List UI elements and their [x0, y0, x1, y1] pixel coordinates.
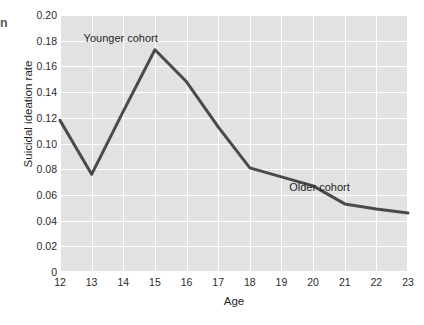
chart-figure: n 00.020.040.060.080.100.120.140.160.180…: [0, 0, 424, 325]
x-axis-tick-label: 12: [45, 276, 75, 288]
x-axis-tick-label: 21: [330, 276, 360, 288]
x-axis-tick-label: 16: [172, 276, 202, 288]
plot-area: Younger cohort Older cohort: [60, 15, 408, 272]
x-axis-tick-label: 15: [140, 276, 170, 288]
y-axis-title: Suicidal ideation rate: [22, 24, 34, 204]
x-axis-title: Age: [60, 295, 408, 307]
x-axis-tick-labels: 121314151617181920212223: [0, 276, 424, 292]
x-axis-tick-label: 17: [203, 276, 233, 288]
y-axis-tick-label: 0.20: [3, 10, 57, 20]
annotation-older-cohort: Older cohort: [289, 181, 350, 193]
x-axis-tick-label: 23: [393, 276, 423, 288]
x-axis-tick-label: 20: [298, 276, 328, 288]
y-axis-tick-label: 0.04: [3, 216, 57, 226]
annotation-younger-cohort: Younger cohort: [84, 32, 158, 44]
x-axis-tick-label: 22: [361, 276, 391, 288]
data-line-svg: [60, 15, 408, 272]
x-axis-tick-label: 14: [108, 276, 138, 288]
series-line-suicidal-ideation-rate: [60, 50, 408, 213]
x-axis-tick-label: 19: [266, 276, 296, 288]
x-axis-tick-label: 18: [235, 276, 265, 288]
x-axis-tick-label: 13: [77, 276, 107, 288]
y-axis-tick-label: 0.02: [3, 241, 57, 251]
